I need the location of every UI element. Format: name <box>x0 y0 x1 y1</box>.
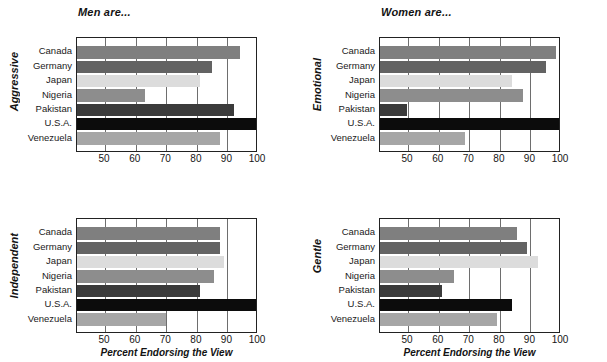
x-tick-label-list: 5060708090100 <box>379 153 560 167</box>
category-label: Canada <box>342 227 375 237</box>
x-tick-label: 50 <box>99 334 110 345</box>
bar-nigeria <box>380 89 523 101</box>
plot-area <box>379 37 560 152</box>
figure-canvas: Men are... Aggressive CanadaGermanyJapan… <box>0 0 607 362</box>
category-label-list: CanadaGermanyJapanNigeriaPakistanU.S.A.V… <box>323 37 377 152</box>
panel-title: Women are... <box>381 6 452 18</box>
x-tick-label: 100 <box>249 153 266 164</box>
bar-germany <box>380 61 546 73</box>
bar-nigeria <box>380 270 454 282</box>
category-label: Japan <box>349 75 375 85</box>
bar-canada <box>77 227 220 239</box>
category-label: U.S.A. <box>45 118 72 128</box>
x-axis-title: Percent Endorsing the View <box>379 347 560 358</box>
x-tick-label-list: 5060708090100 <box>76 153 257 167</box>
bar-germany <box>77 242 220 254</box>
x-tick-label: 90 <box>524 334 535 345</box>
x-tick-label: 50 <box>402 334 413 345</box>
category-label: Nigeria <box>42 271 72 281</box>
bar-usa <box>380 118 560 130</box>
bar-germany <box>77 61 212 73</box>
x-tick-label: 50 <box>99 153 110 164</box>
x-tick-label: 90 <box>221 334 232 345</box>
category-label: Venezuela <box>331 133 375 143</box>
bar-venezuela <box>380 313 497 325</box>
category-label: Japan <box>46 75 72 85</box>
category-label-list: CanadaGermanyJapanNigeriaPakistanU.S.A.V… <box>20 37 74 152</box>
bar-japan <box>380 256 538 268</box>
panel-title: Men are... <box>78 6 131 18</box>
category-label: Canada <box>39 46 72 56</box>
x-tick-label: 70 <box>463 334 474 345</box>
bar-canada <box>380 227 517 239</box>
bar-nigeria <box>77 270 214 282</box>
bar-pakistan <box>380 104 407 116</box>
x-tick-label: 70 <box>160 153 171 164</box>
x-tick-label-list: 5060708090100 <box>76 334 257 348</box>
category-label: Canada <box>342 46 375 56</box>
category-label: U.S.A. <box>348 299 375 309</box>
category-label: Nigeria <box>42 90 72 100</box>
category-label: Nigeria <box>345 271 375 281</box>
category-label: Venezuela <box>28 314 72 324</box>
bar-pakistan <box>77 104 234 116</box>
x-tick-label: 100 <box>552 153 569 164</box>
x-tick-label: 70 <box>160 334 171 345</box>
bar-usa <box>77 118 257 130</box>
x-tick-label: 80 <box>190 334 201 345</box>
bar-venezuela <box>77 132 220 144</box>
category-label: Germany <box>336 242 375 252</box>
bar-japan <box>380 75 512 87</box>
category-label: Pakistan <box>36 104 72 114</box>
x-tick-label: 80 <box>493 334 504 345</box>
plot-area <box>379 218 560 333</box>
bar-nigeria <box>77 89 145 101</box>
x-tick-label: 90 <box>221 153 232 164</box>
x-tick-label-list: 5060708090100 <box>379 334 560 348</box>
x-tick-label: 60 <box>432 153 443 164</box>
bar-pakistan <box>380 285 442 297</box>
category-label: Japan <box>46 256 72 266</box>
category-label: Germany <box>33 242 72 252</box>
chart-panel-gentle: Gentle CanadaGermanyJapanNigeriaPakistan… <box>303 181 606 362</box>
category-label: Pakistan <box>36 285 72 295</box>
bar-pakistan <box>77 285 200 297</box>
x-tick-label: 60 <box>129 153 140 164</box>
bar-canada <box>380 46 556 58</box>
bar-venezuela <box>380 132 465 144</box>
bar-venezuela <box>77 313 166 325</box>
x-tick-label: 60 <box>432 334 443 345</box>
category-label: U.S.A. <box>45 299 72 309</box>
x-tick-label: 60 <box>129 334 140 345</box>
category-label: Pakistan <box>339 285 375 295</box>
category-label: Japan <box>349 256 375 266</box>
x-tick-label: 80 <box>493 153 504 164</box>
category-label-list: CanadaGermanyJapanNigeriaPakistanU.S.A.V… <box>323 218 377 333</box>
plot-area <box>76 218 257 333</box>
category-label: Pakistan <box>339 104 375 114</box>
x-tick-label: 90 <box>524 153 535 164</box>
x-tick-label: 70 <box>463 153 474 164</box>
x-tick-label: 80 <box>190 153 201 164</box>
x-tick-label: 100 <box>552 334 569 345</box>
category-label: Canada <box>39 227 72 237</box>
gridline <box>227 219 228 332</box>
category-label: Venezuela <box>28 133 72 143</box>
bar-usa <box>380 299 512 311</box>
x-axis-title: Percent Endorsing the View <box>76 347 257 358</box>
category-label-list: CanadaGermanyJapanNigeriaPakistanU.S.A.V… <box>20 218 74 333</box>
bar-japan <box>77 256 224 268</box>
category-label: Germany <box>336 61 375 71</box>
bar-germany <box>380 242 527 254</box>
chart-panel-emotional: Women are... Emotional CanadaGermanyJapa… <box>303 0 606 181</box>
gridline <box>530 219 531 332</box>
x-tick-label: 100 <box>249 334 266 345</box>
bar-canada <box>77 46 240 58</box>
bar-japan <box>77 75 200 87</box>
chart-panel-independent: Independent CanadaGermanyJapanNigeriaPak… <box>0 181 303 362</box>
chart-panel-aggressive: Men are... Aggressive CanadaGermanyJapan… <box>0 0 303 181</box>
category-label: Venezuela <box>331 314 375 324</box>
plot-area <box>76 37 257 152</box>
category-label: U.S.A. <box>348 118 375 128</box>
bar-usa <box>77 299 257 311</box>
